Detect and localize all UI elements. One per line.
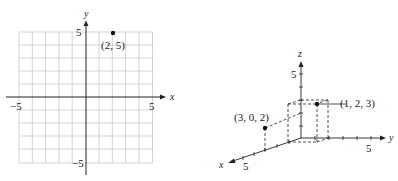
x-arrow-icon-3d — [228, 159, 236, 164]
y-arrow-icon — [84, 21, 89, 27]
point-2-5 — [111, 31, 115, 35]
point-label-3-0-2: (3, 0, 2) — [234, 111, 269, 124]
y-axis-label-2d: y — [83, 8, 89, 19]
tick-z-3d: 5 — [291, 68, 297, 80]
tick-neg-y: −5 — [72, 157, 84, 169]
tick-pos-x: 5 — [149, 100, 155, 112]
tick-pos-y: 5 — [76, 26, 82, 38]
x-axis-label-3d: x — [218, 159, 224, 170]
z-axis-label-3d: z — [297, 48, 302, 59]
y-arrow-icon-3d — [380, 136, 386, 141]
point-1-2-3 — [315, 102, 319, 106]
y-axis-label-3d: y — [388, 132, 394, 143]
tick-y-3d: 5 — [366, 142, 372, 154]
tick-x-3d: 5 — [243, 160, 249, 172]
x-axis-label-2d: x — [169, 91, 175, 102]
plot-2d: x y −5 5 5 −5 (2, 5) — [6, 8, 175, 175]
point-label-1-2-3: (1, 2, 3) — [340, 97, 375, 110]
tick-neg-x: −5 — [10, 100, 22, 112]
x-arrow-icon — [160, 95, 166, 100]
z-arrow-icon — [299, 61, 304, 67]
point-label-2d: (2, 5) — [101, 39, 125, 52]
point-3-0-2 — [263, 126, 267, 130]
coordinate-figures: x y −5 5 5 −5 (2, 5) — [0, 0, 398, 181]
